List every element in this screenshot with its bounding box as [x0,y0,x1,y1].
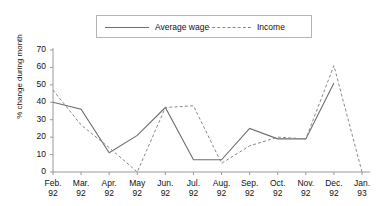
line-chart: Average wage Income % change during mont… [0,0,382,206]
axis-lines [53,48,370,172]
plot-area [0,0,382,206]
tick-marks [50,50,362,175]
series-line-average-wage [53,83,334,160]
series-lines [53,66,362,172]
